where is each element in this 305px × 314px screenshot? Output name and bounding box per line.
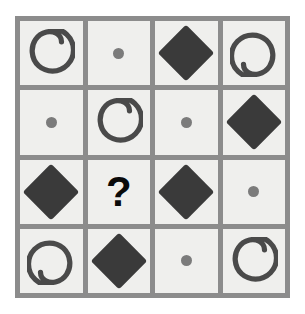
puzzle-cell-r2c1 (20, 90, 83, 154)
puzzle-cell-r2c2 (88, 90, 151, 154)
dot-icon (113, 48, 124, 59)
puzzle-cell-r1c3 (155, 21, 218, 85)
puzzle-cell-r1c1 (20, 21, 83, 85)
spiral-icon (95, 98, 143, 146)
spiral-icon (230, 29, 278, 77)
question-mark-placeholder: ? (106, 171, 132, 213)
puzzle-cell-r3c2: ? (88, 160, 151, 224)
diamond-icon (90, 233, 147, 290)
dot-icon (181, 117, 192, 128)
puzzle-cell-r4c4 (223, 229, 286, 293)
spiral-icon (27, 29, 75, 77)
puzzle-cell-r3c4 (223, 160, 286, 224)
diamond-icon (158, 25, 215, 82)
puzzle-grid: ? (15, 16, 290, 298)
puzzle-cell-r4c3 (155, 229, 218, 293)
puzzle-cell-r3c1 (20, 160, 83, 224)
puzzle-cell-r1c2 (88, 21, 151, 85)
diamond-icon (158, 163, 215, 220)
puzzle-cell-r3c3 (155, 160, 218, 224)
puzzle-image: ? (0, 0, 305, 314)
puzzle-cell-r4c2 (88, 229, 151, 293)
dot-icon (248, 186, 259, 197)
puzzle-cell-r2c4 (223, 90, 286, 154)
dot-icon (46, 117, 57, 128)
puzzle-cell-r2c3 (155, 90, 218, 154)
spiral-icon (230, 237, 278, 285)
puzzle-cell-r1c4 (223, 21, 286, 85)
diamond-icon (225, 94, 282, 151)
spiral-icon (27, 237, 75, 285)
diamond-icon (23, 163, 80, 220)
puzzle-cell-r4c1 (20, 229, 83, 293)
dot-icon (181, 255, 192, 266)
